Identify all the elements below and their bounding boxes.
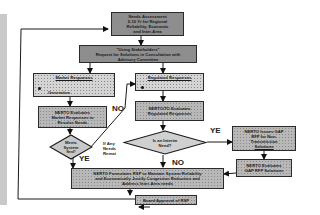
node-board-approval: Board Approval of RSP bbox=[135, 195, 197, 205]
bullet-dot-icon bbox=[141, 86, 144, 89]
formulates-line-3: Address Inter-Area needs bbox=[122, 181, 173, 186]
node-needs-assessment: Needs Assessment 5-10 Yr for Regional Re… bbox=[111, 12, 184, 36]
interim-line-2: Need? bbox=[159, 143, 172, 148]
node-request-for-solutions: "Using Stakeholders" Request for Solutio… bbox=[79, 45, 197, 63]
if-any-line-3: Remai bbox=[103, 151, 116, 156]
edge-label-if-any-needs: If Any Needs Remai bbox=[103, 141, 116, 156]
gap-line-4: Solutions bbox=[254, 144, 273, 149]
node-nerto-evaluates-gap: NERTO Evaluates GAP RFP Solutions bbox=[236, 159, 292, 177]
eval-gap-line-2: GAP RFP Solutions bbox=[245, 168, 284, 173]
edge-label-yes-right: YE bbox=[210, 126, 221, 135]
request-line-3: Advisory Committee bbox=[118, 57, 159, 62]
bullet-dot-icon bbox=[38, 87, 41, 90]
node-nerto-evaluates-market: NERTO Evaluates Market Responses to Reso… bbox=[38, 106, 107, 128]
node-nerto-formulates-rsp: NERTO Formulates RSP to Maintain System … bbox=[71, 168, 224, 189]
node-nerto-evaluates-regulated: NERTO/TO Evaluates Regulated Responses bbox=[135, 101, 204, 121]
node-nerto-issues-gap-rfp: NERTO Issues GAP RFP for Non- Transmissi… bbox=[232, 126, 296, 151]
market-responses-sub: Generation bbox=[48, 90, 70, 95]
market-responses-title: Market Responses bbox=[55, 75, 92, 80]
board-approval-line-1: Board Approval of RSP bbox=[143, 198, 189, 203]
regulated-responses-title: Regulated Responses bbox=[148, 75, 192, 80]
decision-interim-need: Is an Interim Need? bbox=[123, 130, 207, 155]
eval-market-line-3: Resolve Needs bbox=[58, 120, 88, 125]
node-market-responses: Market Responses Generation bbox=[33, 73, 115, 97]
edge-label-yes-left: YE bbox=[79, 154, 90, 163]
edge-label-no-bottom: NO bbox=[172, 158, 184, 167]
node-regulated-responses: Regulated Responses bbox=[135, 73, 204, 91]
eval-regulated-line-2: Regulated Responses bbox=[148, 111, 192, 116]
edge-label-no-left: NO bbox=[112, 104, 124, 113]
needs-assessment-line-4: and Inter-Area bbox=[133, 29, 161, 34]
meets-line-3: Need? bbox=[66, 150, 75, 155]
